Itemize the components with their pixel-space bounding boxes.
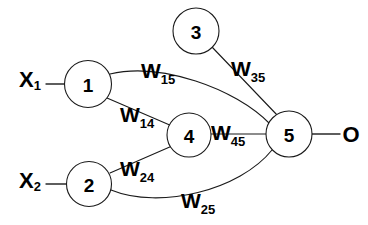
node-3-label: 3 (191, 22, 202, 43)
network-canvas: 1 2 3 4 5 W15 W14 W24 W25 W3 (0, 0, 368, 225)
weight-label-w15: W15 (141, 59, 175, 87)
input-label-x2: X2 (19, 168, 41, 194)
node-5[interactable]: 5 (266, 111, 312, 157)
node-3[interactable]: 3 (173, 8, 219, 54)
weight-label-w25: W25 (181, 189, 215, 217)
node-4[interactable]: 4 (167, 113, 211, 157)
weight-label-w45: W45 (211, 121, 245, 149)
output-label-o: O (342, 122, 359, 147)
nodes-group: 1 2 3 4 5 (65, 8, 313, 207)
weight-label-w14: W14 (120, 103, 155, 131)
node-1-label: 1 (83, 75, 94, 96)
neural-network-diagram: 1 2 3 4 5 W15 W14 W24 W25 W3 (0, 0, 368, 225)
weight-label-w24: W24 (120, 157, 155, 185)
node-5-label: 5 (284, 125, 295, 146)
weight-label-w35: W35 (231, 57, 265, 85)
input-label-x1: X1 (19, 67, 41, 93)
node-2-label: 2 (84, 175, 95, 196)
node-1[interactable]: 1 (65, 61, 112, 108)
node-2[interactable]: 2 (67, 162, 112, 207)
node-4-label: 4 (184, 126, 195, 147)
